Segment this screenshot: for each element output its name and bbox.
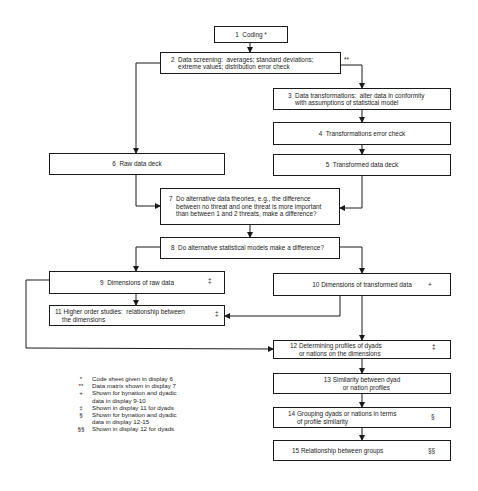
legend-symbol: § — [70, 411, 92, 425]
step-8-alternative-statistical-models: 8 Do alternative statistical models make… — [160, 237, 340, 259]
legend-text: Shown in display 12 for dyads — [92, 425, 174, 432]
step-10-dimensions-transformed-data: 10 Dimensions of transformed data — [273, 273, 451, 296]
step-label: 4 Transformations error check — [319, 130, 406, 137]
legend-row: ‡Shown in display 11 for dyads — [70, 404, 177, 411]
step-6-raw-data-deck: 6 Raw data deck — [49, 153, 225, 175]
step-13-similarity-profiles: 13 Similarity between dyad or nation pro… — [273, 373, 451, 394]
step-9-dimensions-raw-data: 9 Dimensions of raw data — [49, 271, 225, 294]
footnote-mark: § — [431, 413, 435, 420]
footnote-mark: ** — [344, 56, 349, 63]
legend-symbol: * — [70, 375, 92, 382]
legend-symbol: ** — [70, 382, 92, 389]
footnote-mark: ‡ — [208, 277, 212, 284]
step-3-data-transformations: 3 Data transformations: alter data in co… — [273, 88, 451, 110]
step-label: 1 Coding * — [235, 31, 267, 38]
step-5-transformed-data-deck: 5 Transformed data deck — [273, 154, 451, 176]
legend-symbol: ‡ — [70, 404, 92, 411]
legend-row: +Shown for bynation and dyadic data in d… — [70, 389, 177, 403]
legend-symbol: + — [70, 389, 92, 403]
step-4-transformations-error-check: 4 Transformations error check — [273, 122, 451, 145]
legend-text: Shown for bynation and dyadic data in di… — [92, 411, 177, 425]
step-label: 7 Do alternative data theories, e.g., th… — [169, 195, 321, 217]
step-14-grouping-dyads: 14 Grouping dyads or nations in terms of… — [273, 407, 451, 428]
step-12-determining-profiles: 12 Determining profiles of dyads or nati… — [273, 340, 451, 359]
step-label: 13 Similarity between dyad or nation pro… — [324, 376, 400, 391]
step-label: 3 Data transformations: alter data in co… — [288, 92, 424, 107]
footnote-mark: §§ — [428, 447, 435, 454]
step-label: 6 Raw data deck — [112, 160, 161, 167]
legend-text: Code sheet given in display 6 — [92, 375, 173, 382]
step-2-data-screening: 2 Data screening: averages; standard dev… — [160, 52, 341, 74]
step-label: 14 Grouping dyads or nations in terms of… — [288, 410, 396, 425]
step-label: 15 Relationship between groups — [292, 447, 383, 454]
legend-text: Data matrix shown in display 7 — [92, 382, 176, 389]
step-15-relationship-between-groups: 15 Relationship between groups — [273, 440, 451, 461]
step-label: 9 Dimensions of raw data — [100, 279, 174, 286]
step-label: 8 Do alternative statistical models make… — [171, 244, 324, 251]
footnote-mark: + — [428, 281, 432, 288]
flowchart: 1 Coding * 2 Data screening: averages; s… — [0, 0, 478, 491]
step-7-alternative-data-theories: 7 Do alternative data theories, e.g., th… — [160, 188, 340, 225]
step-1-coding: 1 Coding * — [214, 26, 288, 43]
footnote-mark: ‡ — [215, 310, 219, 317]
legend-row: §§Shown in display 12 for dyads — [70, 425, 177, 432]
legend-row: §Shown for bynation and dyadic data in d… — [70, 411, 177, 425]
legend-row: *Code sheet given in display 6 — [70, 375, 177, 382]
legend-symbol: §§ — [70, 425, 92, 432]
step-label: 10 Dimensions of transformed data — [312, 281, 411, 288]
step-label: 5 Transformed data deck — [326, 161, 398, 168]
step-label: 2 Data screening: averages; standard dev… — [171, 56, 313, 71]
step-11-higher-order-studies: 11 Higher order studies: relationship be… — [49, 305, 225, 326]
legend-text: Shown for bynation and dyadic data in di… — [92, 389, 177, 403]
legend-row: **Data matrix shown in display 7 — [70, 382, 177, 389]
legend-text: Shown in display 11 for dyads — [92, 404, 174, 411]
step-label: 12 Determining profiles of dyads or nati… — [290, 342, 382, 357]
step-label: 11 Higher order studies: relationship be… — [55, 308, 185, 323]
footnote-legend: *Code sheet given in display 6 **Data ma… — [70, 375, 177, 433]
footnote-mark: ‡ — [432, 343, 436, 350]
